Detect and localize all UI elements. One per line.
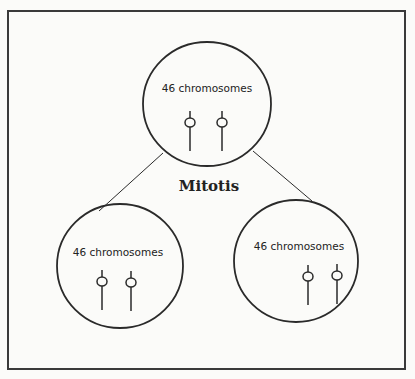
connector-left: [99, 153, 163, 211]
chromosome-icon: [303, 265, 313, 305]
mitosis-diagram: 46 chromosomes Mitotis 46 chromosomes: [0, 0, 415, 379]
daughter-cell-right: 46 chromosomes: [234, 200, 358, 322]
chromosome-icon: [126, 271, 136, 311]
chromosome-icon: [332, 264, 342, 304]
cell-membrane: [57, 204, 183, 328]
parent-cell: 46 chromosomes: [143, 42, 271, 166]
chromosome-icon: [217, 111, 227, 151]
daughter-cell-right-label: 46 chromosomes: [254, 240, 344, 252]
process-label: Mitotis: [179, 177, 239, 195]
chromosome-icon: [185, 111, 195, 151]
cell-membrane: [234, 200, 358, 322]
daughter-cell-left: 46 chromosomes: [57, 204, 183, 328]
connector-right: [253, 151, 312, 201]
daughter-cell-left-label: 46 chromosomes: [73, 246, 163, 258]
parent-cell-label: 46 chromosomes: [162, 82, 252, 94]
cell-membrane: [143, 42, 271, 166]
chromosome-icon: [97, 270, 107, 310]
